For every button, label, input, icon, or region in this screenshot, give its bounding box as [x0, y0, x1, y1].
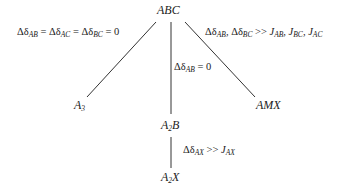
delta-delta: Δδ [205, 26, 217, 37]
delta-delta: Δδ [17, 26, 29, 37]
subscript: AX [226, 148, 235, 157]
condition-a3: ΔδAB = ΔδAC = ΔδBC = 0 [17, 26, 119, 38]
node-a3: A3 [74, 99, 85, 111]
node-amx: AMX [256, 99, 281, 111]
much-greater-than: >> [204, 144, 221, 155]
subscript: BC [93, 30, 103, 39]
comma-delta: , Δδ [226, 26, 243, 37]
equals-delta: = Δδ [70, 26, 93, 37]
node-a2b: A2B [161, 119, 179, 131]
subscript: BC [243, 30, 253, 39]
subscript: AC [61, 30, 71, 39]
equals-zero: = 0 [103, 26, 119, 37]
node-abc-label: ABC [157, 3, 180, 17]
condition-amx: ΔδAB, ΔδBC >> JAB, JBC, JAC [205, 26, 322, 38]
condition-a2b: ΔδAB = 0 [174, 61, 211, 73]
node-label: B [172, 118, 179, 132]
subscript: AB [186, 65, 195, 74]
subscript: AC [313, 30, 323, 39]
node-label: X [172, 170, 179, 184]
subscript: AB [29, 30, 38, 39]
node-abc: ABC [157, 4, 180, 16]
node-label: AMX [256, 98, 281, 112]
subscript: AB [217, 30, 226, 39]
subscript: AB [274, 30, 283, 39]
delta-delta: Δδ [174, 61, 186, 72]
subscript: 3 [81, 104, 85, 113]
equals-delta: = Δδ [38, 26, 61, 37]
condition-a2x: ΔδAX >> JAX [183, 144, 235, 156]
equals-zero: = 0 [195, 61, 211, 72]
node-a2x: A2X [161, 171, 179, 183]
subscript: BC [293, 30, 303, 39]
delta-delta: Δδ [183, 144, 195, 155]
subscript: AX [195, 148, 204, 157]
much-greater-than: >> [252, 26, 269, 37]
